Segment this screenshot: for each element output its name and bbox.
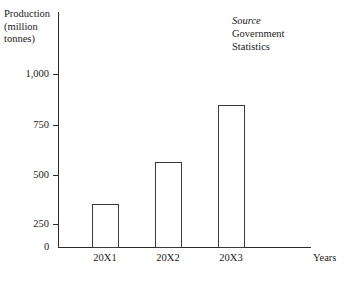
source-line-2: Statistics [232,40,285,53]
y-tick-mark-250 [53,224,59,225]
y-axis-title: Production (million tonnes) [4,8,60,46]
x-tick-label-20X1: 20X1 [78,252,132,264]
x-tick-label-20X3: 20X3 [204,252,258,264]
bar-chart: Production (million tonnes) 1,000 750 50… [0,0,347,300]
x-axis-title: Years [313,252,336,264]
y-tick-mark-1000 [53,74,59,75]
bar-20X2 [155,162,182,248]
y-tick-label-750: 750 [0,119,49,130]
source-annotation: Source Government Statistics [232,14,285,53]
y-tick-mark-500 [53,175,59,176]
y-axis-origin-label: 0 [44,241,49,252]
y-tick-label-1000: 1,000 [0,68,49,79]
bar-20X3 [218,105,245,248]
source-line-1: Government [232,27,285,40]
y-axis-title-line-3: tonnes) [4,33,60,46]
y-tick-label-250: 250 [0,218,49,229]
y-tick-label-500: 500 [0,169,49,180]
y-axis-title-line-2: (million [4,21,60,34]
y-axis-line [58,12,59,248]
bar-20X1 [92,204,119,248]
y-axis-title-line-1: Production [4,8,60,21]
y-tick-mark-750 [53,125,59,126]
source-heading: Source [232,14,285,27]
x-tick-label-20X2: 20X2 [141,252,195,264]
